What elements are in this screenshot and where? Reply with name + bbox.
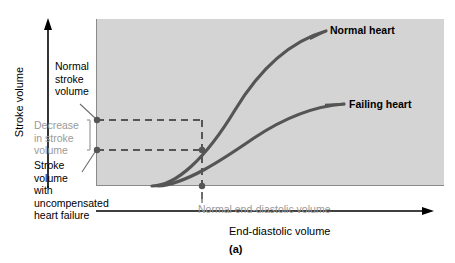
- annotation-decrease-in-stroke-volume: Decrease in stroke volume: [34, 119, 79, 157]
- curve-label-normal-heart: Normal heart: [330, 24, 395, 37]
- normal-stroke-volume-leader: [80, 104, 95, 118]
- decrease-bracket: [87, 120, 90, 150]
- cardiac-function-figure: Stroke volume End-diastolic volume (a) N…: [0, 0, 455, 263]
- annotation-stroke-volume-uncompensated: Stroke volume with uncompensated heart f…: [34, 159, 109, 222]
- annotation-normal-end-diastolic-volume: Normal end-diastolic volume: [198, 203, 330, 216]
- annotation-normal-stroke-volume: Normal stroke volume: [55, 60, 89, 98]
- y-axis-title: Stroke volume: [13, 52, 25, 152]
- curve-label-failing-heart: Failing heart: [349, 98, 411, 111]
- x-axis-title: End-diastolic volume: [229, 225, 331, 237]
- panel-letter: (a): [229, 243, 242, 255]
